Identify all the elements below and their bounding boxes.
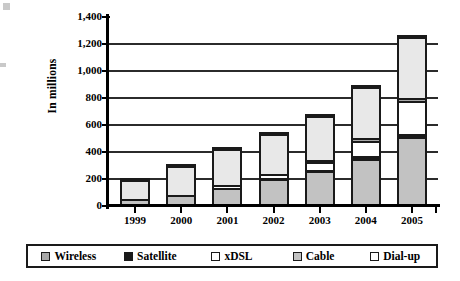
gridline <box>108 124 438 126</box>
x-tick-mark <box>435 206 437 213</box>
legend-swatch-icon <box>293 252 302 261</box>
x-tick-mark <box>319 206 321 213</box>
x-tick-label-2004: 2004 <box>343 214 389 226</box>
legend-item-satellite[interactable]: Satellite <box>110 250 192 262</box>
x-axis-tick-marks <box>108 206 440 213</box>
y-tick-label: 200 <box>52 172 102 184</box>
y-tick-label: 1,000 <box>52 64 102 76</box>
bar-segment-dialup <box>307 116 333 160</box>
bar-segment-dialup <box>214 149 240 184</box>
legend-label: Cable <box>306 250 335 262</box>
x-tick-label-1999: 1999 <box>112 214 158 226</box>
x-tick-mark <box>411 206 413 213</box>
bar-2004[interactable] <box>351 85 381 207</box>
bar-segment-cable <box>168 197 194 204</box>
bar-segment-cable <box>214 190 240 204</box>
x-tick-label-2000: 2000 <box>158 214 204 226</box>
legend-item-dialup[interactable]: Dial-up <box>354 250 436 262</box>
bar-segment-xdsl <box>399 101 425 133</box>
legend-item-wireless[interactable]: Wireless <box>28 250 110 262</box>
bar-segment-xdsl <box>307 162 333 169</box>
bar-segment-cable <box>353 161 379 204</box>
bar-segment-dialup <box>168 166 194 195</box>
bar-segment-dialup <box>261 134 287 173</box>
legend-swatch-icon <box>211 252 220 261</box>
x-tick-label-2005: 2005 <box>389 214 435 226</box>
legend-label: xDSL <box>224 250 252 262</box>
bar-2003[interactable] <box>305 114 335 206</box>
x-tick-label-2003: 2003 <box>297 214 343 226</box>
bar-segment-cable <box>261 181 287 204</box>
x-tick-mark <box>180 206 182 213</box>
stacked-bar-chart: In millions 02004006008001,0001,2001,400… <box>0 0 460 281</box>
bar-2000[interactable] <box>166 164 196 206</box>
bar-segment-dialup <box>353 87 379 139</box>
x-tick-label-2001: 2001 <box>204 214 250 226</box>
bar-2001[interactable] <box>212 147 242 206</box>
y-tick-label: 0 <box>52 199 102 211</box>
x-tick-mark <box>365 206 367 213</box>
x-tick-mark <box>273 206 275 213</box>
y-tick-label: 600 <box>52 118 102 130</box>
y-tick-label: 1,400 <box>52 10 102 22</box>
bar-1999[interactable] <box>120 178 150 206</box>
gridline <box>108 70 438 72</box>
legend-swatch-icon <box>370 252 379 261</box>
y-tick-label: 400 <box>52 145 102 157</box>
legend-swatch-icon <box>41 252 50 261</box>
legend-label: Satellite <box>137 250 177 262</box>
bar-segment-dialup <box>122 180 148 200</box>
plot-area <box>108 17 438 206</box>
y-axis-tick-labels: 02004006008001,0001,2001,400 <box>52 17 102 206</box>
bar-segment-cable <box>399 139 425 204</box>
x-tick-mark <box>134 206 136 213</box>
legend-item-xdsl[interactable]: xDSL <box>191 250 273 262</box>
y-axis-line <box>106 14 109 209</box>
y-tick-label: 800 <box>52 91 102 103</box>
x-tick-mark <box>226 206 228 213</box>
bar-2005[interactable] <box>397 35 427 206</box>
chart-legend: WirelessSatellitexDSLCableDial-up <box>26 244 438 268</box>
bar-2002[interactable] <box>259 132 289 206</box>
gridline <box>108 97 438 99</box>
x-tick-label-2002: 2002 <box>251 214 297 226</box>
x-axis-tick-labels: 1999200020012002200320042005 <box>108 214 440 232</box>
legend-item-cable[interactable]: Cable <box>273 250 355 262</box>
bar-segment-dialup <box>399 37 425 98</box>
gridline <box>108 43 438 45</box>
y-tick-label: 1,200 <box>52 37 102 49</box>
legend-swatch-icon <box>124 252 133 261</box>
legend-label: Dial-up <box>383 250 420 262</box>
bar-segment-xdsl <box>353 141 379 157</box>
bar-segment-cable <box>307 173 333 204</box>
legend-label: Wireless <box>54 250 96 262</box>
